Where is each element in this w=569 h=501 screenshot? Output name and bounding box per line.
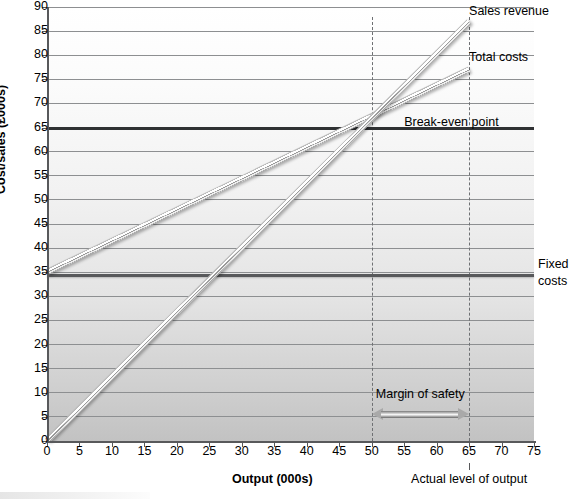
gridline-horizontal <box>47 79 534 80</box>
x-axis-tick-label: 65 <box>454 445 484 458</box>
plot-area <box>47 7 534 441</box>
y-axis-tick-label: 25 <box>12 313 48 326</box>
series-line-total-costs <box>46 67 471 275</box>
x-axis-title: Output (000s) <box>232 472 313 486</box>
marker-line-x-65 <box>469 17 470 441</box>
arrow-shaft <box>381 411 460 418</box>
y-axis-tick-label: 70 <box>12 96 48 109</box>
y-axis-tick-label: 50 <box>12 193 48 206</box>
gridline-horizontal <box>47 272 534 273</box>
actual-output-tick-connector <box>469 463 470 470</box>
x-axis-tick-label: 45 <box>324 445 354 458</box>
y-axis-tick-label: 40 <box>12 241 48 254</box>
arrow-head-right-icon <box>458 408 469 420</box>
y-axis-tick-label: 55 <box>12 169 48 182</box>
x-axis-tick-label: 20 <box>162 445 192 458</box>
x-axis-tick-label: 15 <box>129 445 159 458</box>
series-label-sales-revenue: Sales revenue <box>469 4 549 18</box>
x-axis-tick-label: 5 <box>64 445 94 458</box>
y-axis-tick-label: 15 <box>12 362 48 375</box>
y-axis-title: Cost/sales (£000s) <box>0 85 8 194</box>
x-axis-tick-label: 30 <box>227 445 257 458</box>
gridline-horizontal <box>47 55 534 56</box>
x-axis-tick-label: 35 <box>259 445 289 458</box>
marker-line-x-50 <box>372 17 373 441</box>
x-axis-tick-label: 25 <box>194 445 224 458</box>
plot-inner <box>47 7 534 441</box>
y-axis-tick-label: 10 <box>12 386 48 399</box>
y-axis-tick-label: 80 <box>12 48 48 61</box>
x-axis-tick-label: 70 <box>487 445 517 458</box>
x-axis-tick-label: 50 <box>357 445 387 458</box>
gridline-horizontal <box>47 320 534 321</box>
x-axis-tick-label: 0 <box>32 445 62 458</box>
annotation-break-even-point: Break-even point <box>404 115 499 129</box>
series-label-total-costs: Total costs <box>469 50 528 64</box>
series-line-sales-revenue <box>45 19 471 443</box>
series-label-fixed-costs-line1: Fixed <box>538 257 569 271</box>
gridline-horizontal <box>47 224 534 225</box>
y-axis-tick-label: 75 <box>12 72 48 85</box>
y-axis-tick-label: 60 <box>12 145 48 158</box>
gridline-horizontal <box>47 103 534 104</box>
page-artifact <box>0 492 150 499</box>
gridline-horizontal <box>47 175 534 176</box>
y-axis-tick-label: 5 <box>12 410 48 423</box>
x-axis-tick-label: 40 <box>292 445 322 458</box>
x-axis-tick-label: 75 <box>519 445 549 458</box>
y-axis-tick-label: 35 <box>12 265 48 278</box>
y-axis-tick-label: 20 <box>12 338 48 351</box>
y-axis-tick-label: 90 <box>12 0 48 13</box>
x-axis-spine <box>47 441 536 443</box>
annotation-margin-of-safety: Margin of safety <box>376 387 465 401</box>
margin-of-safety-arrow <box>372 408 469 421</box>
series-label-fixed-costs-line2: costs <box>538 274 567 288</box>
break-even-chart: Cost/sales (£000s) Output (000s) Sales r… <box>0 0 569 501</box>
y-axis-tick-label: 30 <box>12 289 48 302</box>
gridline-horizontal <box>47 344 534 345</box>
fixed-costs-line <box>47 274 534 277</box>
y-axis-tick-label: 45 <box>12 217 48 230</box>
x-axis-tick-label: 10 <box>97 445 127 458</box>
annotation-actual-level-of-output: Actual level of output <box>411 472 527 486</box>
y-axis-tick-label: 85 <box>12 24 48 37</box>
y-axis-tick-label: 65 <box>12 121 48 134</box>
gridline-horizontal <box>47 7 534 8</box>
x-axis-tick-label: 55 <box>389 445 419 458</box>
gridline-horizontal <box>47 248 534 249</box>
x-axis-tick-label: 60 <box>422 445 452 458</box>
gridline-horizontal <box>47 296 534 297</box>
